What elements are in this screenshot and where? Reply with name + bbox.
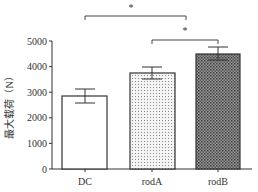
x-tick-labels: DC rodA rodB [78, 176, 228, 187]
significance-star-top: * [129, 2, 134, 13]
y-tick-0: 0 [42, 164, 47, 175]
x-label-dc: DC [78, 176, 92, 187]
y-tick-labels: 0 1000 2000 3000 4000 5000 [27, 36, 47, 175]
significance-bracket-top [85, 16, 186, 20]
y-axis-label: 最大载荷（N） [3, 71, 15, 138]
bar-roda [130, 73, 175, 169]
y-tick-1000: 1000 [27, 138, 47, 149]
significance-bracket-bottom [152, 40, 218, 44]
y-tick-4000: 4000 [27, 61, 47, 72]
y-tick-3000: 3000 [27, 87, 47, 98]
y-tick-5000: 5000 [27, 36, 47, 47]
bar-dc [62, 96, 107, 169]
bar-chart: 最大载荷（N） 0 1000 2000 3000 4000 5000 DC ro… [0, 0, 258, 192]
bar-rodb [196, 54, 240, 169]
y-tick-2000: 2000 [27, 112, 47, 123]
x-label-rodb: rodB [208, 176, 228, 187]
significance-star-bottom: * [183, 25, 188, 36]
x-label-roda: rodA [142, 176, 163, 187]
